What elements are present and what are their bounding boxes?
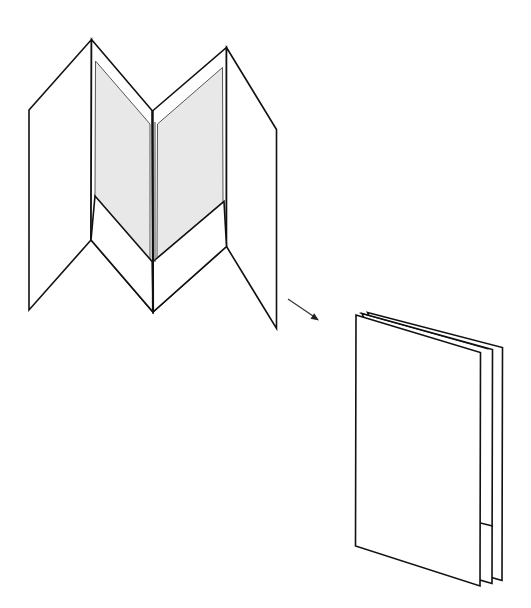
folding-diagram: [0, 0, 531, 608]
closed-brochure: [356, 313, 503, 587]
front-cover: [356, 315, 481, 586]
right-outer-panel: [227, 48, 277, 329]
center-fold: [153, 111, 154, 312]
open-brochure: [29, 40, 277, 329]
left-outer-panel: [29, 40, 92, 311]
arrow-icon: [288, 299, 319, 321]
